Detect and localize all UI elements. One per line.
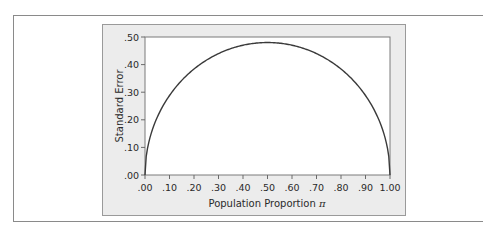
- x-axis-label: Population Proportion π: [208, 198, 326, 209]
- x-tick-label: .30: [211, 182, 226, 193]
- y-tick-label: .50: [124, 32, 139, 43]
- x-tick-label: 1.00: [379, 182, 400, 193]
- x-tick-label: .20: [186, 182, 201, 193]
- x-tick-label: .10: [162, 182, 177, 193]
- x-axis: .00.10.20.30.40.50.60.70.80.901.00: [137, 175, 400, 193]
- x-tick-label: .70: [309, 182, 324, 193]
- y-axis-label: Standard Error: [114, 69, 125, 143]
- y-tick-label: .00: [124, 170, 139, 181]
- y-tick-label: .40: [124, 59, 139, 70]
- x-tick-label: .90: [358, 182, 373, 193]
- x-tick-label: .60: [284, 182, 299, 193]
- x-tick-label: .00: [137, 182, 152, 193]
- x-tick-label: .80: [333, 182, 348, 193]
- x-tick-label: .40: [235, 182, 250, 193]
- y-tick-label: .20: [124, 114, 139, 125]
- x-tick-label: .50: [260, 182, 275, 193]
- y-axis: .00.10.20.30.40.50: [124, 32, 145, 181]
- plot-area: [145, 37, 390, 175]
- y-tick-label: .30: [124, 87, 139, 98]
- y-tick-label: .10: [124, 142, 139, 153]
